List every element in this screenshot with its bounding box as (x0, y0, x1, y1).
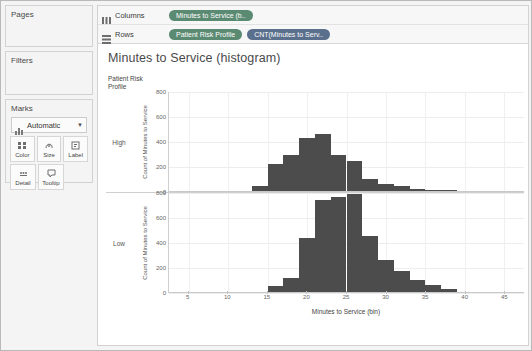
histogram-bar[interactable] (362, 236, 378, 292)
histogram-bar[interactable] (347, 161, 363, 191)
columns-shelf[interactable]: Columns Minutes to Service (b.. (98, 6, 528, 25)
plot-area: High Count of Minutes to Service 0200400… (98, 92, 528, 345)
mark-type-value: Automatic (27, 121, 77, 130)
panel-low-y-ticks: 0200400600800 (150, 193, 168, 293)
y-tick-label: 400 (156, 139, 166, 145)
marks-tooltip-button[interactable]: Tooltip (38, 164, 64, 190)
marks-card: Marks Automatic ▼ Color (5, 99, 93, 183)
x-tick-label: 15 (264, 294, 271, 300)
marks-card-title: Marks (6, 100, 92, 116)
panel-high: High Count of Minutes to Service 0200400… (98, 92, 524, 192)
pages-card[interactable]: Pages (5, 5, 93, 47)
columns-icon (102, 11, 111, 20)
columns-shelf-label: Columns (115, 11, 169, 20)
filters-card[interactable]: Filters (5, 51, 93, 95)
panel-high-y-axis-title: Count of Minutes to Service (140, 92, 150, 192)
marks-label-button[interactable]: Label (63, 136, 88, 162)
marks-buttons-row-2: Detail Tooltip (6, 164, 92, 190)
histogram-bar[interactable] (331, 197, 347, 292)
histogram-bar[interactable] (299, 238, 315, 292)
rows-shelf[interactable]: Rows Patient Risk Profile CNT(Minutes to… (98, 25, 528, 43)
worksheet-panel: Columns Minutes to Service (b.. Rows Pat… (97, 5, 529, 346)
row-header-title: Patient RiskProfile (108, 75, 143, 91)
pill-cnt-minutes-to-service[interactable]: CNT(Minutes to Serv.. (247, 29, 330, 40)
panel-low-plot (168, 193, 524, 293)
rows-shelf-label: Rows (115, 30, 169, 39)
pages-card-title: Pages (6, 6, 92, 22)
y-tick-label: 200 (156, 164, 166, 170)
mark-type-dropdown[interactable]: Automatic ▼ (11, 117, 87, 133)
panel-low-bars (169, 193, 524, 292)
x-tick-label: 20 (303, 294, 310, 300)
histogram-bar[interactable] (268, 164, 284, 191)
x-tick-label: 30 (382, 294, 389, 300)
y-tick-label: 800 (156, 190, 166, 196)
histogram-bar[interactable] (410, 280, 426, 292)
page-title: Minutes to Service (histogram) (98, 44, 528, 65)
marks-color-label: Color (15, 152, 29, 159)
histogram-bar[interactable] (315, 200, 331, 292)
marks-size-button[interactable]: Size (37, 136, 62, 162)
marks-detail-button[interactable]: Detail (10, 164, 36, 190)
marks-size-label: Size (43, 152, 55, 159)
x-tick-label: 25 (343, 294, 350, 300)
chart-canvas: Minutes to Service (histogram) Patient R… (98, 44, 528, 345)
histogram-bar[interactable] (347, 194, 363, 292)
histogram-bar[interactable] (425, 285, 441, 292)
x-tick-label: 10 (224, 294, 231, 300)
marks-detail-label: Detail (15, 180, 30, 187)
y-tick-label: 600 (156, 114, 166, 120)
panel-low-y-axis-title: Count of Minutes to Service (140, 193, 150, 293)
bar-chart-icon (15, 121, 24, 129)
y-tick-label: 600 (156, 215, 166, 221)
histogram-bar[interactable] (315, 134, 331, 191)
rows-icon (102, 30, 111, 39)
panel-low-label: Low (98, 193, 140, 293)
panel-high-label: High (98, 92, 140, 192)
histogram-bar[interactable] (331, 155, 347, 192)
histogram-bar[interactable] (394, 271, 410, 292)
y-tick-label: 800 (156, 89, 166, 95)
size-icon (44, 140, 55, 151)
x-tick-label: 35 (422, 294, 429, 300)
pill-patient-risk-profile[interactable]: Patient Risk Profile (169, 29, 242, 40)
left-rail: Pages Filters Marks Automatic ▼ Color (5, 5, 93, 346)
y-tick-label: 0 (163, 290, 166, 296)
x-tick-label: 5 (186, 294, 189, 300)
pill-minutes-to-service-bin[interactable]: Minutes to Service (b.. (169, 10, 253, 21)
filters-card-title: Filters (6, 52, 92, 68)
detail-icon (18, 168, 29, 179)
panel-high-y-ticks: 0200400600800 (150, 92, 168, 192)
tooltip-icon (46, 168, 57, 179)
chevron-down-icon[interactable]: ▼ (77, 122, 83, 128)
histogram-bar[interactable] (362, 179, 378, 191)
marks-tooltip-label: Tooltip (42, 180, 59, 187)
histogram-bar[interactable] (299, 138, 315, 191)
tableau-worksheet-window: Pages Filters Marks Automatic ▼ Color (0, 0, 532, 351)
panel-high-plot (168, 92, 524, 192)
y-tick-label: 400 (156, 240, 166, 246)
marks-label-label: Label (68, 152, 83, 159)
x-axis-ticks: 51015202530354045 (168, 294, 524, 308)
panel-high-bars (169, 92, 524, 191)
color-squares-icon (17, 140, 28, 151)
label-icon (70, 140, 81, 151)
histogram-bar[interactable] (283, 155, 299, 192)
histogram-bar[interactable] (378, 260, 394, 292)
x-axis-title: Minutes to Service (bin) (168, 308, 524, 315)
marks-color-button[interactable]: Color (10, 136, 35, 162)
panel-low: Low Count of Minutes to Service 02004006… (98, 193, 524, 293)
x-tick-label: 45 (501, 294, 508, 300)
marks-buttons-row-1: Color Size Label (6, 136, 92, 162)
x-tick-label: 40 (461, 294, 468, 300)
y-tick-label: 200 (156, 265, 166, 271)
histogram-bar[interactable] (378, 184, 394, 191)
shelves-area: Columns Minutes to Service (b.. Rows Pat… (98, 6, 528, 44)
histogram-bar[interactable] (283, 278, 299, 292)
